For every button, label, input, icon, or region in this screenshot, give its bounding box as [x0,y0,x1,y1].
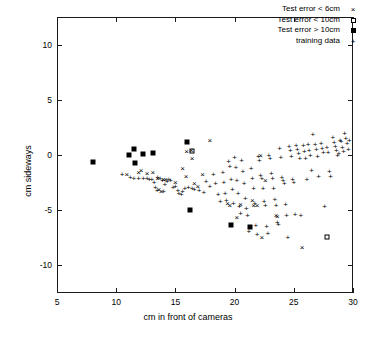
data-point-filled-square [185,139,190,144]
data-point-+: + [283,201,288,209]
data-point-+: + [230,186,235,194]
data-point-+: + [289,153,294,161]
data-point-x: × [259,234,264,242]
data-point-+: + [231,200,236,208]
data-point-+: + [322,203,327,211]
x-tick-label: 20 [230,297,239,307]
data-point-+: + [268,155,273,163]
y-tick-mark [57,45,62,46]
y-tick-label: -5 [22,205,52,215]
data-point-+: + [278,154,283,162]
data-point-+: + [277,145,282,153]
data-point-+: + [201,189,206,197]
legend-item-label: Test error > 10cm [278,25,340,36]
data-point-+: + [346,146,351,154]
data-point-+: + [282,180,287,188]
data-point-+: + [308,152,313,160]
data-point-+: + [286,234,291,242]
legend-item: Test error < 6cm× [278,4,366,15]
x-tick-mark [175,17,176,22]
data-point-+: + [155,187,160,195]
data-point-filled-square [187,208,192,213]
data-point-filled-square [133,161,138,166]
data-point-+: + [255,231,260,239]
x-tick-mark [116,17,117,22]
data-point-+: + [347,137,352,145]
data-point-+: + [211,171,216,179]
data-point-+: + [304,176,309,184]
data-point-+: + [242,180,247,188]
legend-marker-x-icon: × [340,4,366,14]
x-axis-label: cm in front of cameras [0,312,376,322]
data-point-filled-square [131,146,136,151]
data-point-filled-square [229,222,234,227]
x-tick-mark [116,288,117,293]
data-point-+: + [241,168,246,176]
data-point-filled-square [127,153,132,158]
x-tick-label: 10 [111,297,120,307]
data-point-+: + [207,183,212,191]
legend-item-label: Test error < 6cm [282,4,340,15]
data-point-+: + [265,230,270,238]
data-point-+: + [271,185,276,193]
data-point-+: + [263,202,268,210]
x-tick-mark [294,288,295,293]
y-tick-mark [348,100,353,101]
data-point-+: + [228,163,233,171]
data-point-+: + [224,197,229,205]
data-point-x: × [300,244,305,252]
data-point-+: + [257,157,262,165]
chart-screenshot: 1050-5-10 51015202530 cm sideways cm in … [0,0,376,341]
data-point-+: + [315,153,320,161]
data-point-+: + [218,198,223,206]
data-point-+: + [254,222,259,230]
data-point-+: + [235,177,240,185]
y-tick-mark [348,265,353,266]
data-point-filled-square [141,151,146,156]
y-tick-mark [348,210,353,211]
data-point-+: + [297,155,302,163]
data-point-+: + [252,200,257,208]
data-point-+: + [229,176,234,184]
data-point-+: + [293,211,298,219]
legend: Test error < 6cm×Test error < 10cmTest e… [278,4,366,46]
data-point-filled-square [90,159,95,164]
data-point-+: + [284,212,289,220]
data-point-+: + [276,221,281,229]
data-point-+: + [236,190,241,198]
data-point-+: + [274,202,279,210]
y-tick-mark [348,155,353,156]
data-point-+: + [250,175,255,183]
x-tick-mark [57,288,58,293]
data-point-+: + [222,179,227,187]
data-point-+: + [310,131,315,139]
data-point-+: + [261,185,266,193]
y-tick-label: 10 [22,40,52,50]
data-point-+: + [243,195,248,203]
data-point-+: + [251,185,256,193]
legend-item-label: training data [296,36,340,47]
legend-item: Test error < 10cm [278,15,366,26]
legend-item: training data+ [278,36,366,47]
data-point-+: + [161,188,166,196]
data-point-x: × [190,155,195,163]
x-tick-label: 25 [289,297,298,307]
data-point-+: + [245,212,250,220]
data-point-+: + [233,164,238,172]
x-tick-label: 15 [171,297,180,307]
legend-marker-open-square-icon [340,15,366,25]
y-tick-label: 5 [22,95,52,105]
x-tick-mark [353,288,354,293]
data-point-+: + [316,173,321,181]
data-point-filled-square [150,151,155,156]
data-point-+: + [232,154,237,162]
data-point-+: + [326,149,331,157]
data-point-+: + [309,167,314,175]
data-point-+: + [246,228,251,236]
data-point-+: + [120,171,125,179]
data-point-open-square [324,234,329,239]
legend-item-label: Test error < 10cm [278,15,340,26]
data-point-+: + [328,173,333,181]
y-tick-mark [57,155,62,156]
x-tick-mark [235,17,236,22]
